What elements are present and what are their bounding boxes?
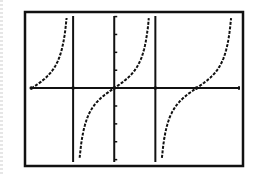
graph-screen [0, 0, 255, 176]
